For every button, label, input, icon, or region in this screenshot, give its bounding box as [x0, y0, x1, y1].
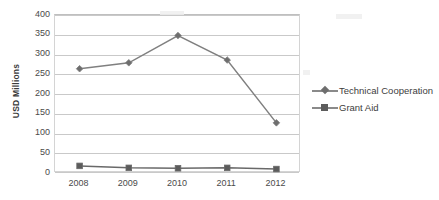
scan-artifact [160, 11, 184, 15]
chart-legend: Technical Cooperation Grant Aid [312, 82, 436, 116]
data-point-diamond [175, 32, 182, 39]
legend-item-label: Grant Aid [338, 102, 379, 113]
x-tick-label: 2011 [204, 179, 248, 188]
diamond-marker-icon [312, 85, 338, 97]
data-point-square [175, 165, 181, 171]
x-tick-label: 2009 [106, 179, 150, 188]
data-point-square [77, 163, 83, 169]
x-tick-label: 2008 [57, 179, 101, 188]
data-point-square [224, 165, 230, 171]
line-chart: USD Millions 400 350 300 250 200 150 100… [0, 0, 439, 200]
y-tick-label: 400 [22, 10, 50, 19]
data-point-diamond [126, 59, 133, 66]
y-tick-label: 0 [22, 168, 50, 177]
legend-item-grant-aid: Grant Aid [312, 99, 436, 116]
data-point-diamond [76, 65, 83, 72]
scan-artifact [336, 14, 362, 19]
series-grant-aid [77, 163, 279, 172]
y-tick-label: 150 [22, 108, 50, 117]
plot-area [54, 14, 300, 172]
y-tick-label: 200 [22, 89, 50, 98]
scan-artifact [303, 70, 310, 75]
legend-item-technical-cooperation: Technical Cooperation [312, 82, 436, 99]
data-point-square [126, 165, 132, 171]
legend-item-label: Technical Cooperation [338, 85, 433, 96]
series-technical-cooperation [76, 32, 279, 126]
y-tick-label: 50 [22, 148, 50, 157]
y-tick-label: 350 [22, 29, 50, 38]
series-layer [55, 15, 301, 173]
y-tick-label: 100 [22, 128, 50, 137]
data-point-square [274, 166, 280, 172]
y-tick-label: 250 [22, 69, 50, 78]
y-tick-label: 300 [22, 49, 50, 58]
y-axis-tick-labels: 400 350 300 250 200 150 100 50 0 [20, 0, 50, 200]
x-tick-label: 2012 [253, 179, 297, 188]
square-marker-icon [312, 102, 338, 114]
x-tick-label: 2010 [155, 179, 199, 188]
series-line [80, 36, 277, 123]
